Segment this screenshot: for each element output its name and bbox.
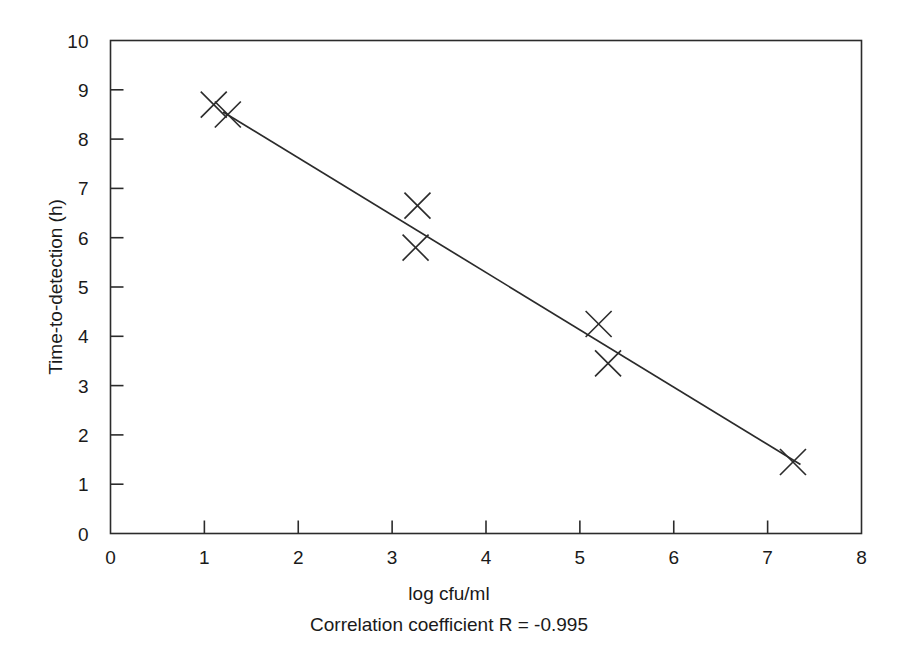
y-axis-tick-labels: 012345678910 [67, 31, 89, 545]
x-tick-label-3: 3 [387, 547, 398, 568]
y-tick-label-6: 6 [78, 228, 89, 249]
data-point-marker [404, 193, 430, 219]
x-tick-label-8: 8 [856, 547, 867, 568]
x-axis-title: log cfu/ml [408, 583, 489, 604]
y-tick-label-2: 2 [78, 425, 89, 446]
x-tick-label-4: 4 [481, 547, 492, 568]
x-axis-tick-labels: 012345678 [105, 547, 867, 568]
x-axis-ticks [204, 521, 767, 534]
y-tick-label-5: 5 [78, 277, 89, 298]
x-tick-label-1: 1 [199, 547, 210, 568]
y-tick-label-7: 7 [78, 178, 89, 199]
x-tick-label-5: 5 [575, 547, 586, 568]
correlation-caption: Correlation coefficient R = -0.995 [310, 614, 588, 635]
data-point-marker [201, 92, 227, 118]
data-point-marker [780, 449, 806, 475]
x-tick-label-2: 2 [293, 547, 304, 568]
y-tick-label-1: 1 [78, 474, 89, 495]
regression-fit-line [223, 112, 800, 464]
y-tick-label-0: 0 [78, 524, 89, 545]
data-point-marker [586, 311, 612, 337]
x-tick-label-6: 6 [668, 547, 679, 568]
y-axis-ticks [111, 90, 124, 484]
y-axis-title: Time-to-detection (h) [45, 199, 66, 375]
data-point-marker [215, 101, 241, 127]
data-point-marker [403, 235, 429, 261]
data-point-marker [595, 350, 621, 376]
y-tick-label-9: 9 [78, 80, 89, 101]
fit-line [223, 112, 800, 464]
scatter-plot-svg: 012345678910 012345678 Time-to-detection… [0, 0, 906, 661]
chart-figure: 012345678910 012345678 Time-to-detection… [0, 0, 906, 661]
x-tick-label-0: 0 [105, 547, 116, 568]
y-tick-label-3: 3 [78, 376, 89, 397]
y-tick-label-10: 10 [67, 31, 88, 52]
x-tick-label-7: 7 [762, 547, 773, 568]
y-tick-label-8: 8 [78, 129, 89, 150]
y-tick-label-4: 4 [78, 326, 89, 347]
